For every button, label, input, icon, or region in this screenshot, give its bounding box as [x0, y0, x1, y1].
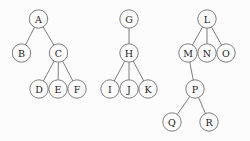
- tree-edge-C-F: [63, 61, 73, 81]
- node-label-K: K: [144, 84, 152, 95]
- tree-edge-L-O: [211, 27, 221, 45]
- tree-edge-H-I: [114, 61, 124, 81]
- tree-1: ABCDEF: [12, 10, 86, 98]
- tree-node-L: L: [198, 10, 216, 28]
- node-label-B: B: [18, 48, 25, 59]
- tree-node-H: H: [120, 44, 138, 62]
- tree-edge-C-D: [43, 61, 54, 81]
- tree-node-G: G: [120, 10, 138, 28]
- tree-diagram-figure: ABCDEFGHIJKLMNOPQR: [0, 0, 250, 141]
- tree-node-D: D: [30, 80, 48, 98]
- tree-3: LMNOPQR: [163, 10, 235, 131]
- tree-edge-M-P: [190, 62, 193, 80]
- tree-node-Q: Q: [163, 113, 181, 131]
- node-label-R: R: [205, 117, 213, 128]
- tree-node-N: N: [198, 44, 216, 62]
- tree-node-A: A: [29, 10, 47, 28]
- node-label-G: G: [125, 14, 133, 25]
- tree-node-B: B: [12, 44, 30, 62]
- tree-edge-H-K: [133, 61, 143, 81]
- tree-node-K: K: [139, 80, 157, 98]
- node-label-H: H: [125, 48, 133, 59]
- tree-node-I: I: [101, 80, 119, 98]
- node-label-A: A: [34, 14, 42, 25]
- tree-edge-P-R: [199, 97, 206, 113]
- tree-edge-A-C: [43, 27, 54, 45]
- tree-node-J: J: [120, 80, 138, 98]
- tree-node-O: O: [217, 44, 235, 62]
- node-label-Q: Q: [168, 117, 176, 128]
- node-label-M: M: [183, 48, 193, 59]
- node-label-I: I: [108, 84, 112, 95]
- tree-node-P: P: [186, 80, 204, 98]
- forest-svg: ABCDEFGHIJKLMNOPQR: [0, 0, 250, 141]
- node-label-E: E: [55, 84, 62, 95]
- node-label-N: N: [203, 48, 211, 59]
- tree-node-C: C: [49, 44, 67, 62]
- tree-edge-P-Q: [177, 97, 189, 115]
- node-label-C: C: [55, 48, 62, 59]
- tree-edge-L-M: [192, 27, 202, 45]
- node-label-F: F: [74, 84, 81, 95]
- tree-3-edges: [177, 27, 221, 114]
- tree-node-R: R: [200, 113, 218, 131]
- tree-edge-A-B: [26, 27, 35, 45]
- node-label-O: O: [222, 48, 230, 59]
- tree-2: GHIJK: [101, 10, 157, 98]
- node-label-D: D: [35, 84, 43, 95]
- node-label-J: J: [126, 84, 131, 95]
- tree-node-F: F: [68, 80, 86, 98]
- node-label-P: P: [192, 84, 199, 95]
- tree-node-M: M: [179, 44, 197, 62]
- node-label-L: L: [204, 14, 211, 25]
- tree-node-E: E: [49, 80, 67, 98]
